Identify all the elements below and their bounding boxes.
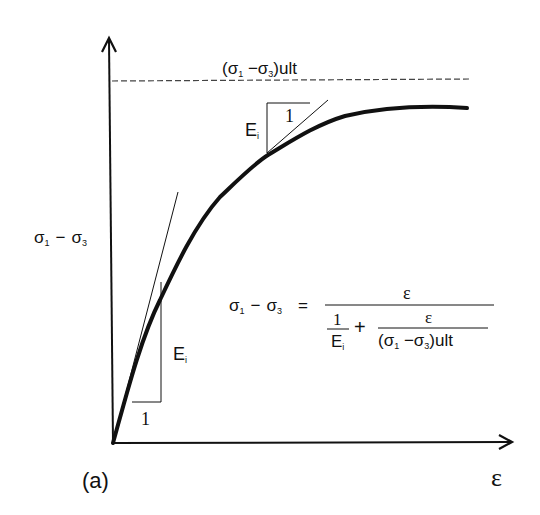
stress-strain-curve xyxy=(113,107,467,443)
denom-term1-denominator: Ei xyxy=(331,332,344,352)
upper-triangle-run-label: 1 xyxy=(285,106,294,126)
x-axis-label: ε xyxy=(491,463,502,492)
denom-term1-numerator: 1 xyxy=(333,310,342,329)
asymptote-label: (σ1 −σ3)ult xyxy=(222,59,297,79)
stress-strain-diagram: (σ1 −σ3)ult Ei 1 Ei 1 σ1−σ3 ε (a) σ1−σ3 … xyxy=(0,0,540,515)
lower-triangle-run-label: 1 xyxy=(141,409,150,429)
y-axis-label: σ1−σ3 xyxy=(34,228,87,248)
hyperbolic-equation: σ1−σ3 = ε 1 Ei + ε (σ1 −σ3)ult xyxy=(229,283,494,352)
equation-lhs: σ1−σ3 xyxy=(229,296,282,316)
panel-label: (a) xyxy=(82,468,109,493)
y-axis xyxy=(102,38,116,443)
asymptote-dashed-line xyxy=(112,79,472,81)
lower-tangent-line xyxy=(113,192,178,443)
denom-term2-denominator: (σ1 −σ3)ult xyxy=(378,331,453,351)
lower-triangle-ei-label: Ei xyxy=(173,344,187,365)
x-axis xyxy=(113,435,512,449)
upper-triangle-ei-label: Ei xyxy=(245,120,259,141)
equation-numerator: ε xyxy=(403,283,411,303)
denom-term2-numerator: ε xyxy=(425,308,432,327)
denom-plus: + xyxy=(354,316,366,338)
equation-equals: = xyxy=(298,296,308,315)
